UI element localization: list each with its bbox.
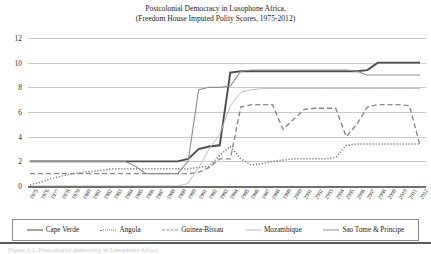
x-tick-1987: 1987 bbox=[155, 188, 166, 200]
y-tick-12: 12 bbox=[15, 34, 22, 43]
legend-line-swatch-icon bbox=[27, 227, 43, 234]
x-tick-2003: 2003 bbox=[323, 188, 334, 200]
chart-title: Postcolonial Democracy in Lusophone Afri… bbox=[0, 4, 431, 23]
x-tick-2006: 2006 bbox=[355, 188, 366, 200]
legend-label: Sao Tome & Principe bbox=[342, 226, 404, 234]
y-tick-8: 8 bbox=[18, 83, 22, 92]
x-tick-2010: 2010 bbox=[397, 188, 408, 200]
x-tick-2011: 2011 bbox=[408, 188, 419, 200]
plot-area bbox=[28, 38, 426, 186]
legend-line-swatch-icon bbox=[323, 227, 339, 234]
x-tick-1995: 1995 bbox=[239, 188, 250, 200]
x-tick-1980: 1980 bbox=[81, 188, 92, 200]
x-tick-1977: 1977 bbox=[49, 188, 60, 200]
series-layer bbox=[28, 38, 426, 186]
x-tick-1979: 1979 bbox=[70, 188, 81, 200]
x-axis-tick-labels: 1975197619771978197919801981198219831984… bbox=[28, 188, 426, 222]
x-tick-1986: 1986 bbox=[144, 188, 155, 200]
x-tick-2009: 2009 bbox=[387, 188, 398, 200]
y-tick-0: 0 bbox=[18, 182, 22, 191]
legend-item-sao-tome-principe[interactable]: Sao Tome & Principe bbox=[323, 226, 404, 234]
x-tick-2002: 2002 bbox=[313, 188, 324, 200]
legend-item-mozambique[interactable]: Mozambique bbox=[245, 226, 302, 234]
y-tick-4: 4 bbox=[18, 132, 22, 141]
x-tick-1976: 1976 bbox=[39, 188, 50, 200]
y-axis-tick-labels: 024681012 bbox=[0, 38, 26, 186]
legend-item-angola[interactable]: Angola bbox=[100, 226, 140, 234]
legend-line-swatch-icon bbox=[162, 227, 178, 234]
x-tick-1984: 1984 bbox=[123, 188, 134, 200]
x-tick-1997: 1997 bbox=[260, 188, 271, 200]
chart-legend: Cape VerdeAngolaGuinea-BissauMozambiqueS… bbox=[12, 219, 419, 241]
x-tick-1988: 1988 bbox=[165, 188, 176, 200]
legend-item-cape-verde[interactable]: Cape Verde bbox=[27, 226, 79, 234]
legend-label: Cape Verde bbox=[46, 226, 79, 234]
chart-figure: Postcolonial Democracy in Lusophone Afri… bbox=[0, 0, 431, 254]
y-tick-10: 10 bbox=[15, 58, 22, 67]
x-tick-2008: 2008 bbox=[376, 188, 387, 200]
chart-title-line-1: Postcolonial Democracy in Lusophone Afri… bbox=[0, 4, 431, 14]
x-tick-1993: 1993 bbox=[218, 188, 229, 200]
legend-label: Mozambique bbox=[264, 226, 302, 234]
x-tick-1982: 1982 bbox=[102, 188, 113, 200]
x-tick-2001: 2001 bbox=[302, 188, 313, 200]
x-tick-1994: 1994 bbox=[229, 188, 240, 200]
legend-label: Angola bbox=[119, 226, 140, 234]
x-tick-2007: 2007 bbox=[366, 188, 377, 200]
series-line-cape-verde bbox=[30, 63, 420, 162]
legend-line-swatch-icon bbox=[100, 227, 116, 234]
x-tick-2012: 2012 bbox=[418, 188, 429, 200]
y-tick-6: 6 bbox=[18, 108, 22, 117]
x-tick-2005: 2005 bbox=[344, 188, 355, 200]
page-divider bbox=[0, 242, 431, 244]
x-tick-1999: 1999 bbox=[281, 188, 292, 200]
x-tick-1992: 1992 bbox=[207, 188, 218, 200]
x-tick-1975: 1975 bbox=[28, 188, 39, 200]
x-tick-1983: 1983 bbox=[113, 188, 124, 200]
x-tick-2004: 2004 bbox=[334, 188, 345, 200]
chart-title-line-2: (Freedom House Imputed Polity Scores, 19… bbox=[0, 14, 431, 24]
legend-item-guinea-bissau[interactable]: Guinea-Bissau bbox=[162, 226, 223, 234]
series-line-angola bbox=[30, 144, 420, 185]
x-tick-1996: 1996 bbox=[250, 188, 261, 200]
x-tick-1978: 1978 bbox=[60, 188, 71, 200]
x-tick-1985: 1985 bbox=[134, 188, 145, 200]
x-tick-1998: 1998 bbox=[271, 188, 282, 200]
x-tick-1989: 1989 bbox=[176, 188, 187, 200]
legend-label: Guinea-Bissau bbox=[181, 226, 223, 234]
legend-line-swatch-icon bbox=[245, 227, 261, 234]
series-line-sao-tome-principe bbox=[30, 70, 420, 174]
x-tick-1990: 1990 bbox=[186, 188, 197, 200]
x-tick-2000: 2000 bbox=[292, 188, 303, 200]
x-tick-1981: 1981 bbox=[92, 188, 103, 200]
x-tick-1991: 1991 bbox=[197, 188, 208, 200]
y-tick-2: 2 bbox=[18, 157, 22, 166]
figure-caption: Figure 1.1. Postcolonial democracy in Lu… bbox=[8, 246, 428, 253]
